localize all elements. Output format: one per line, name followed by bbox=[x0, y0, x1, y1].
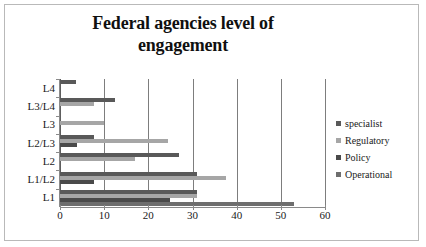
legend-label: Operational bbox=[345, 170, 392, 180]
chart-frame: Federal agencies level of engagement L1L… bbox=[4, 4, 419, 241]
gridline-40 bbox=[237, 79, 238, 207]
y-axis-category-label: L4 bbox=[7, 83, 55, 94]
x-axis-tick-label: 0 bbox=[45, 210, 75, 221]
legend-item: Operational bbox=[336, 166, 422, 183]
legend-label: Policy bbox=[345, 153, 371, 163]
chart-legend: specialistRegulatoryPolicyOperational bbox=[336, 115, 422, 183]
legend-label: specialist bbox=[345, 119, 382, 129]
legend-label: Regulatory bbox=[345, 136, 389, 146]
gridline-50 bbox=[281, 79, 282, 207]
x-axis-tick-label: 30 bbox=[178, 210, 208, 221]
x-axis-tick-label: 60 bbox=[310, 210, 340, 221]
bar-L1-Operational bbox=[60, 202, 294, 206]
bar-L4-specialist bbox=[60, 80, 76, 84]
y-axis-category-label: L2/L3 bbox=[7, 138, 55, 149]
y-axis-category-label: L2 bbox=[7, 156, 55, 167]
x-axis-tick-label: 20 bbox=[133, 210, 163, 221]
y-tick bbox=[56, 116, 60, 117]
bar-L2-Regulatory bbox=[60, 157, 135, 161]
legend-swatch-icon bbox=[336, 138, 341, 143]
gridline-30 bbox=[193, 79, 194, 207]
x-axis-tick-label: 40 bbox=[222, 210, 252, 221]
bar-L2-L3-Policy bbox=[60, 143, 77, 147]
legend-item: Policy bbox=[336, 149, 422, 166]
bar-L1-L2-Policy bbox=[60, 180, 94, 184]
bar-L3-Regulatory bbox=[60, 121, 104, 125]
chart-title: Federal agencies level of engagement bbox=[33, 13, 333, 57]
legend-swatch-icon bbox=[336, 121, 341, 126]
bar-L3-L4-Regulatory bbox=[60, 102, 94, 106]
legend-swatch-icon bbox=[336, 155, 341, 160]
chart-title-line-2: engagement bbox=[138, 35, 228, 55]
legend-item: specialist bbox=[336, 115, 422, 132]
y-axis-category-label: L1/L2 bbox=[7, 174, 55, 185]
x-axis-tick-label: 10 bbox=[89, 210, 119, 221]
legend-item: Regulatory bbox=[336, 132, 422, 149]
plot-area bbox=[60, 79, 325, 207]
gridline-20 bbox=[148, 79, 149, 207]
y-axis-category-label: L3/L4 bbox=[7, 101, 55, 112]
chart-title-line-1: Federal agencies level of bbox=[92, 13, 273, 33]
gridline-60 bbox=[325, 79, 326, 207]
y-axis-labels: L1L1/L2L2L2/L3L3L3/L4L4 bbox=[5, 79, 55, 207]
legend-swatch-icon bbox=[336, 172, 341, 177]
x-axis-tick-label: 50 bbox=[266, 210, 296, 221]
x-axis-labels: 0102030405060 bbox=[60, 210, 325, 226]
y-axis-category-label: L3 bbox=[7, 119, 55, 130]
y-axis-category-label: L1 bbox=[7, 192, 55, 203]
